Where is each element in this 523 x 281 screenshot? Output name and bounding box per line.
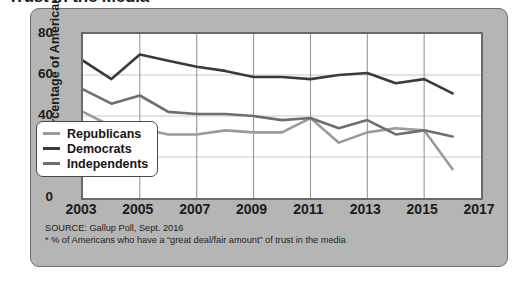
x-axis-tick: 2013 <box>335 201 395 217</box>
y-axis-tick: 0 <box>13 189 53 204</box>
series-line <box>83 55 453 94</box>
x-axis-tick: 2007 <box>165 201 225 217</box>
x-axis-tick: 2015 <box>392 201 452 217</box>
x-axis-tick: 2009 <box>222 201 282 217</box>
figure-title: Trust in the Media <box>8 0 149 7</box>
chart-panel: Percentage of Americans 020406080 200320… <box>30 8 508 267</box>
legend-label: Democrats <box>67 142 132 156</box>
legend-label: Republicans <box>67 127 141 141</box>
x-axis-tick: 2017 <box>449 201 509 217</box>
legend-swatch-icon <box>43 132 60 135</box>
footnote-note: * % of Americans who have a “great deal/… <box>45 234 497 246</box>
legend-item: Independents <box>43 156 148 171</box>
legend-label: Independents <box>67 157 148 171</box>
legend-item: Republicans <box>43 126 148 141</box>
footnote: SOURCE: Gallup Poll, Sept. 2016 * % of A… <box>45 222 497 246</box>
x-axis-tick: 2005 <box>108 201 168 217</box>
y-axis-tick: 60 <box>13 66 53 81</box>
legend-item: Democrats <box>43 141 148 156</box>
x-axis-tick: 2011 <box>278 201 338 217</box>
legend: RepublicansDemocratsIndependents <box>36 121 158 177</box>
y-axis-tick: 40 <box>13 107 53 122</box>
footnote-source: SOURCE: Gallup Poll, Sept. 2016 <box>45 222 497 234</box>
y-axis-tick: 80 <box>13 25 53 40</box>
legend-swatch-icon <box>43 147 60 150</box>
legend-swatch-icon <box>43 162 60 165</box>
x-axis-tick: 2003 <box>51 201 111 217</box>
